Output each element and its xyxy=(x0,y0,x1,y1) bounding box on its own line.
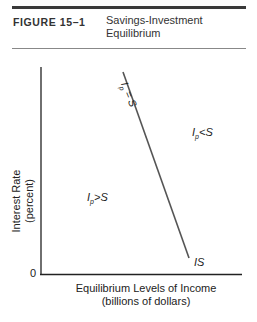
x-axis-label-line2: (billions of dollars) xyxy=(60,295,232,308)
x-axis-label-line1: Equilibrium Levels of Income xyxy=(60,282,232,295)
left-rest: >S xyxy=(94,191,108,203)
y-axis-label: Interest Rate (percent) xyxy=(10,156,36,246)
origin-label: 0 xyxy=(30,267,36,279)
region-label-right: Ip<S xyxy=(192,126,213,140)
y-axis-label-line2: (percent) xyxy=(23,156,36,246)
region-label-left: Ip>S xyxy=(87,191,108,205)
right-rest: <S xyxy=(199,126,213,138)
chart-plot xyxy=(0,0,257,322)
x-axis-label: Equilibrium Levels of Income (billions o… xyxy=(60,282,232,308)
is-curve-label: IS xyxy=(194,256,204,268)
y-axis-label-line1: Interest Rate xyxy=(10,156,23,246)
